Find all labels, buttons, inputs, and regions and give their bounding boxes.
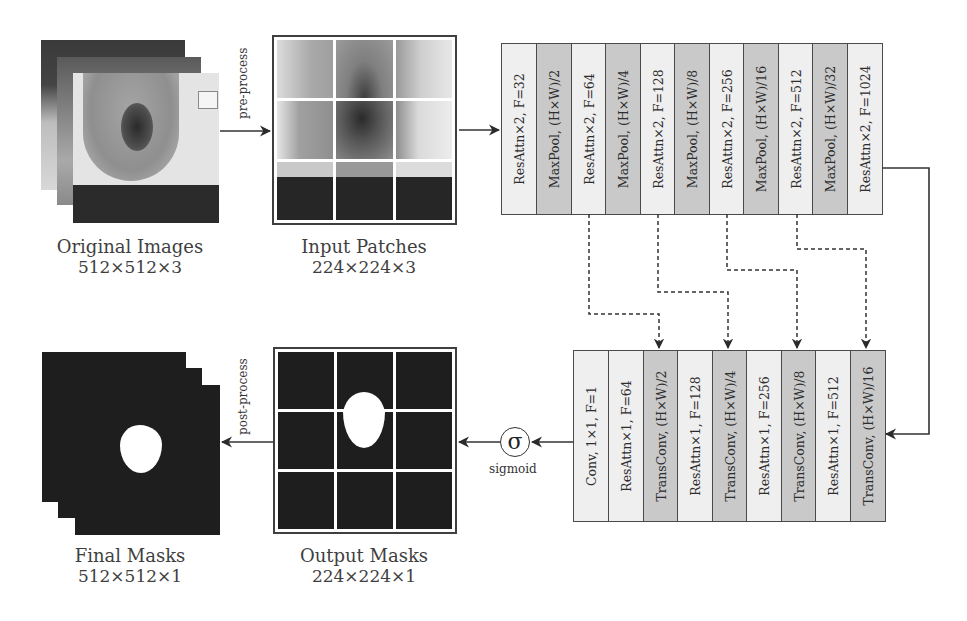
encoder-layer-5: ResAttn×2, F=128 (641, 44, 675, 214)
input-patch-4 (277, 101, 333, 159)
final-masks-dims: 512×512×1 (30, 566, 230, 586)
sigmoid-node: σ (500, 427, 530, 457)
original-images-caption: Original Images 512×512×3 (30, 237, 230, 277)
final-mask-front (75, 385, 220, 535)
encoder-layer-11: ResAttn×2, F=1024 (848, 44, 882, 214)
decoder-layer-5: TransConv, (H×W)/4 (713, 351, 747, 521)
output-masks-title: Output Masks (264, 546, 464, 566)
skip-connection-3 (727, 214, 797, 348)
original-images-dims: 512×512×3 (30, 257, 230, 277)
decoder-layer-4: ResAttn×1, F=128 (678, 351, 713, 521)
output-masks-dims: 224×224×1 (264, 566, 464, 586)
input-patches-title: Input Patches (264, 237, 464, 257)
output-patch-3 (396, 352, 452, 409)
output-patch-9 (396, 472, 452, 529)
encoder-layer-7: ResAttn×2, F=256 (710, 44, 744, 214)
decoder-layer-6: ResAttn×1, F=256 (747, 351, 782, 521)
decoder-layer-7: TransConv, (H×W)/8 (782, 351, 816, 521)
encoder-block: ResAttn×2, F=32 MaxPool, (H×W)/2 ResAttn… (501, 43, 883, 215)
decoder-layer-2: ResAttn×1, F=64 (609, 351, 644, 521)
skip-connection-1 (589, 214, 659, 348)
output-patch-7 (278, 472, 334, 529)
input-patch-8 (336, 162, 392, 220)
sigmoid-label: sigmoid (489, 462, 537, 476)
output-masks-caption: Output Masks 224×224×1 (264, 546, 464, 586)
encoder-layer-8: MaxPool, (H×W)/16 (744, 44, 779, 214)
output-masks-grid (273, 347, 457, 534)
output-patch-2 (337, 352, 393, 409)
bottleneck-arrow (882, 168, 929, 434)
encoder-layer-10: MaxPool, (H×W)/32 (813, 44, 848, 214)
encoder-layer-4: MaxPool, (H×W)/4 (606, 44, 641, 214)
decoder-block: Conv, 1×1, F=1 ResAttn×1, F=64 TransConv… (573, 350, 886, 522)
output-patch-6 (396, 412, 452, 469)
input-patch-6 (396, 101, 452, 159)
output-patch-5 (337, 412, 393, 469)
input-patch-5 (336, 101, 392, 159)
decoder-layer-9: TransConv, (H×W)/16 (851, 351, 885, 521)
final-masks-title: Final Masks (30, 546, 230, 566)
skip-connection-2 (658, 214, 728, 348)
encoder-layer-9: ResAttn×2, F=512 (779, 44, 813, 214)
skip-connection-4 (797, 214, 866, 348)
encoder-layer-6: MaxPool, (H×W)/8 (675, 44, 710, 214)
input-patches-dims: 224×224×3 (264, 257, 464, 277)
decoder-layer-3: TransConv, (H×W)/2 (644, 351, 678, 521)
final-masks-caption: Final Masks 512×512×1 (30, 546, 230, 586)
input-patch-7 (277, 162, 333, 220)
pre-process-label: pre-process (236, 48, 250, 119)
input-patch-3 (396, 40, 452, 98)
input-patches-grid (272, 35, 457, 225)
encoder-layer-3: ResAttn×2, F=64 (572, 44, 606, 214)
encoder-layer-2: MaxPool, (H×W)/2 (537, 44, 572, 214)
original-images-title: Original Images (30, 237, 230, 257)
decoder-layer-8: ResAttn×1, F=512 (816, 351, 851, 521)
post-process-label: post-process (236, 358, 250, 435)
original-image-front (73, 73, 219, 223)
output-patch-4 (278, 412, 334, 469)
decoder-layer-1: Conv, 1×1, F=1 (574, 351, 609, 521)
input-patch-9 (396, 162, 452, 220)
input-patch-1 (277, 40, 333, 98)
output-patch-1 (278, 352, 334, 409)
encoder-layer-1: ResAttn×2, F=32 (502, 44, 537, 214)
input-patches-caption: Input Patches 224×224×3 (264, 237, 464, 277)
input-patch-2 (336, 40, 392, 98)
output-patch-8 (337, 472, 393, 529)
